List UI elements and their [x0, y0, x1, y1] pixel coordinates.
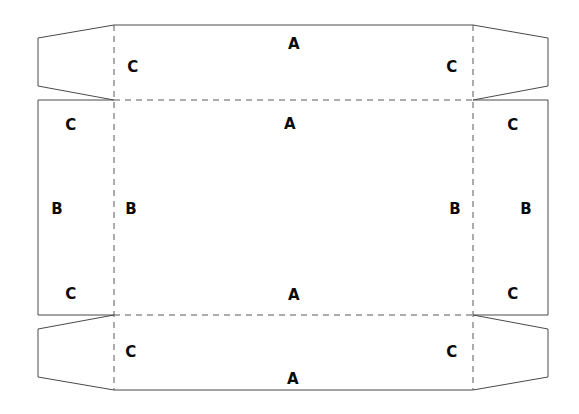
flap-label-c-top-right: C	[446, 60, 457, 75]
fold-lines-group	[114, 25, 473, 390]
panel-label-b-left-outer: B	[51, 202, 63, 217]
corner-label-c-upper-left: C	[65, 118, 76, 133]
panel-label-a-top-inner: A	[284, 117, 296, 132]
corner-label-c-upper-right: C	[507, 118, 518, 133]
panel-label-a-bottom-inner: A	[288, 288, 300, 303]
panel-label-b-right-outer: B	[520, 202, 532, 217]
bottom-right-flap-cut	[473, 315, 548, 390]
panel-label-a-top-outer: A	[288, 37, 300, 52]
dieline-drawing	[0, 0, 579, 414]
dieline-canvas: A A A A B B B B C C C C C C C C	[0, 0, 579, 414]
bottom-left-flap-cut	[38, 315, 114, 390]
flap-label-c-bottom-right: C	[446, 345, 457, 360]
flap-label-c-top-left: C	[127, 60, 138, 75]
top-right-flap-cut	[473, 25, 548, 100]
panel-label-a-bottom-outer: A	[287, 372, 299, 387]
panel-label-b-left-inner: B	[125, 202, 137, 217]
corner-label-c-lower-left: C	[65, 287, 76, 302]
flap-label-c-bottom-left: C	[125, 345, 136, 360]
corner-label-c-lower-right: C	[507, 287, 518, 302]
panel-label-b-right-inner: B	[449, 202, 461, 217]
top-left-flap-cut	[38, 25, 114, 100]
